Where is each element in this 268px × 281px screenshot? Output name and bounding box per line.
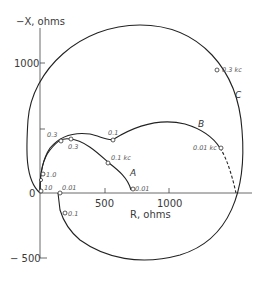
point-10 — [39, 189, 43, 193]
y-tick-label-1000: 1000 — [14, 58, 39, 69]
label-c-0.3kc: 0.3 kc — [222, 66, 242, 74]
y-tick-label-neg500: − 500 — [10, 253, 41, 264]
point-c-0.1 — [63, 211, 67, 215]
label-1.0: 1.0 — [46, 171, 56, 179]
point-b-0.3 — [59, 139, 63, 143]
label-c-0.01: 0.01 — [62, 184, 76, 192]
point-b-0.01kc — [219, 146, 223, 150]
curve-b-dashed — [220, 148, 236, 193]
point-1.0b — [39, 178, 42, 181]
label-a-0.3: 0.3 — [68, 143, 78, 151]
x-tick-label-500: 500 — [95, 198, 114, 209]
point-a-0.3 — [69, 137, 73, 141]
label-curve-b: B — [198, 119, 204, 129]
point-a-0.1kc — [106, 161, 110, 165]
x-tick-label-1000: 1000 — [157, 198, 182, 209]
label-curve-c: C — [235, 90, 242, 100]
point-c-0.3kc — [215, 68, 219, 72]
y-tick-label-0: 0 — [29, 188, 35, 199]
label-c-0.1: 0.1 — [68, 210, 78, 218]
label-10: 10 — [44, 184, 52, 192]
label-a-0.01: 0.01 — [135, 185, 149, 193]
label-curve-a: A — [129, 168, 136, 178]
label-b-0.1: 0.1 — [108, 129, 118, 137]
y-axis-title: −X, ohms — [16, 16, 65, 27]
label-a-0.1kc: 0.1 kc — [111, 154, 131, 162]
point-b-0.1 — [111, 138, 115, 142]
impedance-diagram: −X, ohms 1000 0 − 500 500 1000 R, ohms 0… — [0, 0, 268, 281]
label-b-0.3: 0.3 — [47, 131, 57, 139]
x-axis-title: R, ohms — [130, 209, 171, 220]
point-1.0 — [41, 172, 45, 176]
label-b-0.01kc: 0.01 kc — [193, 144, 217, 152]
curve-a — [40, 139, 131, 190]
